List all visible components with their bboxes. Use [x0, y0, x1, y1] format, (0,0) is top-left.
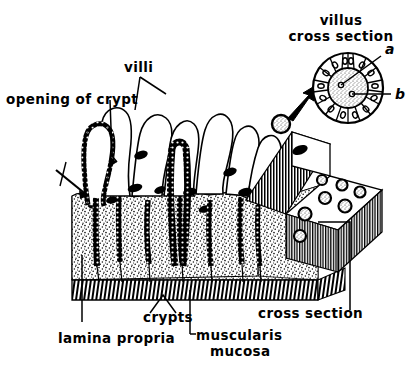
crypt — [119, 196, 120, 262]
label-opening-of-crypt: opening of crypt — [6, 91, 138, 107]
label-muscularis-line2: mucosa — [210, 343, 271, 359]
label-villus-cross-section-line1: villus — [320, 12, 363, 28]
cut-villus-profile — [299, 208, 312, 221]
villus-cross-section-diagram — [313, 53, 383, 123]
cross-section-core — [328, 68, 368, 108]
crypt — [258, 205, 260, 266]
label-marker-b: b — [395, 86, 405, 102]
cut-villus-profile — [319, 192, 331, 204]
cut-villus-profile — [339, 200, 352, 213]
cut-villus-profile — [355, 187, 366, 198]
label-lamina-propria: lamina propria — [58, 330, 175, 346]
crypt — [96, 198, 97, 266]
crypt — [240, 197, 242, 264]
muscularis-mucosa-band — [72, 280, 318, 300]
label-cross-section: cross section — [258, 305, 363, 321]
label-villi: villi — [124, 59, 153, 75]
label-muscularis-line1: muscularis — [196, 327, 282, 343]
cut-villus-profile — [317, 175, 327, 185]
crypt — [209, 200, 211, 266]
label-villus-cross-section-line2: cross section — [288, 28, 393, 44]
crypt — [147, 200, 149, 264]
source-villus-cross-section — [272, 115, 290, 133]
cut-villus-profile — [337, 180, 348, 191]
intestinal-mucosa-figure: villus cross section a b villi opening o… — [0, 0, 417, 373]
label-marker-a: a — [385, 41, 394, 57]
figure-canvas: villus cross section a b villi opening o… — [0, 0, 417, 373]
cut-villus-profile — [294, 230, 306, 242]
label-crypts: crypts — [143, 309, 193, 325]
